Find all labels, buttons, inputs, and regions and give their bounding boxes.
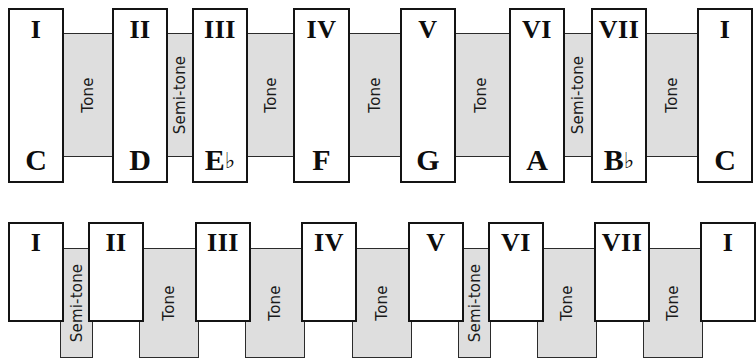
degree-box-7[interactable]: VII B♭ [591, 8, 647, 183]
interval-band-tone-3: Tone [345, 33, 405, 157]
interval-label: Tone [79, 77, 97, 112]
interval-band-tone-4: Tone [537, 248, 597, 358]
degree-box-5[interactable]: V [408, 222, 464, 322]
degree-numeral: V [418, 10, 437, 43]
interval-label: Tone [663, 77, 681, 112]
interval-band-tone-2: Tone [245, 248, 305, 358]
degree-box-1[interactable]: I C [8, 8, 64, 183]
degree-box-7[interactable]: VII [594, 222, 650, 322]
interval-label: Tone [664, 285, 682, 320]
degree-note: A [526, 145, 548, 181]
degree-numeral: I [31, 10, 42, 43]
interval-label: Tone [373, 285, 391, 320]
degree-note: C [25, 145, 47, 181]
degree-note: B♭ [604, 145, 634, 181]
scale-row-top: Tone Semi-tone Tone Tone Tone Semi-tone … [0, 0, 748, 200]
degree-box-4[interactable]: IV [301, 222, 357, 322]
degree-numeral: IV [314, 224, 344, 256]
degree-numeral: II [105, 224, 126, 256]
degree-note: C [714, 145, 736, 181]
interval-band-tone-2: Tone [243, 33, 298, 157]
degree-box-6[interactable]: VI A [509, 8, 565, 183]
interval-label: Tone [366, 77, 384, 112]
degree-numeral: III [204, 10, 236, 43]
degree-box-5[interactable]: V G [400, 8, 456, 183]
accidental-symbol: ♭ [225, 148, 235, 173]
degree-numeral: VII [602, 224, 643, 256]
degree-note: E♭ [205, 145, 235, 181]
degree-note: D [129, 145, 151, 181]
interval-label: Tone [262, 77, 280, 112]
degree-box-2[interactable]: II D [112, 8, 168, 183]
degree-numeral: I [723, 224, 734, 256]
interval-label: Semi-tone [171, 56, 189, 135]
degree-box-1[interactable]: I [8, 222, 64, 322]
degree-numeral: VI [501, 224, 531, 256]
degree-box-6[interactable]: VI [488, 222, 544, 322]
interval-label: Tone [160, 285, 178, 320]
degree-numeral: VI [522, 10, 552, 43]
degree-box-3[interactable]: III [195, 222, 251, 322]
degree-numeral: V [426, 224, 445, 256]
interval-label: Semi-tone [466, 264, 484, 343]
interval-label: Tone [472, 77, 490, 112]
degree-box-8[interactable]: I [700, 222, 756, 322]
scale-row-bottom: Semi-tone Tone Tone Tone Semi-tone Tone … [0, 222, 748, 288]
degree-numeral: II [129, 10, 150, 43]
degree-box-3[interactable]: III E♭ [192, 8, 248, 183]
degree-box-4[interactable]: IV F [293, 8, 350, 183]
degree-box-8[interactable]: I C [697, 8, 753, 183]
degree-numeral: VII [599, 10, 640, 43]
interval-band-tone-4: Tone [450, 33, 512, 157]
interval-band-tone-1: Tone [57, 33, 119, 157]
degree-note: G [416, 145, 439, 181]
degree-note: F [312, 145, 330, 181]
degree-box-2[interactable]: II [88, 222, 144, 322]
degree-numeral: I [720, 10, 731, 43]
interval-band-tone-5: Tone [642, 33, 702, 157]
interval-band-tone-5: Tone [643, 248, 703, 358]
interval-label: Tone [266, 285, 284, 320]
interval-label: Tone [558, 285, 576, 320]
degree-numeral: III [207, 224, 239, 256]
degree-numeral: I [31, 224, 42, 256]
degree-numeral: IV [307, 10, 337, 43]
interval-label: Semi-tone [569, 56, 587, 135]
interval-band-tone-3: Tone [352, 248, 412, 358]
accidental-symbol: ♭ [624, 148, 634, 173]
interval-label: Semi-tone [68, 264, 86, 343]
interval-band-tone-1: Tone [139, 248, 199, 358]
